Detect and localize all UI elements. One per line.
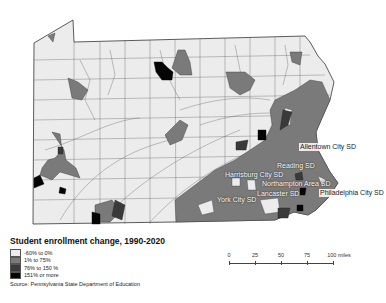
map-label-harrisburg: Harrisburg City SD xyxy=(224,171,284,179)
scale-tick xyxy=(281,261,282,265)
scale-tick-label: 0 xyxy=(227,252,230,258)
map-label-reading: Reading SD xyxy=(276,162,316,170)
legend-item: 151% or more xyxy=(10,272,165,280)
scale-bar: 0 25 50 75 100 miles xyxy=(229,252,324,272)
scale-tick xyxy=(255,261,256,265)
map-label-northampton: Northampton Area SD xyxy=(261,180,331,188)
map-label-philadelphia: Philadelphia City SD xyxy=(319,189,385,197)
pennsylvania-school-district-map: Allentown City SD Reading SD Harrisburg … xyxy=(0,0,386,240)
legend-label: 76% to 150 % xyxy=(24,265,58,271)
scale-tick-label: 25 xyxy=(252,252,258,258)
source-note: Source: Pennsylvania State Department of… xyxy=(10,281,165,287)
legend-swatch xyxy=(10,249,21,257)
scale-tick xyxy=(229,261,230,265)
map-legend: Student enrollment change, 1990-2020 -60… xyxy=(10,236,165,287)
legend-label: -60% to 0% xyxy=(24,250,52,256)
legend-label: 151% or more xyxy=(24,272,59,278)
legend-swatch xyxy=(10,272,21,280)
scale-tick xyxy=(333,261,334,265)
legend-title: Student enrollment change, 1990-2020 xyxy=(10,236,165,246)
map-svg xyxy=(0,0,386,240)
map-label-allentown: Allentown City SD xyxy=(299,143,357,151)
legend-swatch xyxy=(10,257,21,265)
map-label-york: York City SD xyxy=(216,196,257,204)
scale-tick-label: 100 miles xyxy=(327,252,351,258)
legend-item: 76% to 150 % xyxy=(10,264,165,272)
legend-swatch xyxy=(10,264,21,272)
legend-label: 1% to 75% xyxy=(24,257,51,263)
scale-tick-label: 75 xyxy=(304,252,310,258)
scale-tick-label: 50 xyxy=(278,252,284,258)
legend-item: -60% to 0% xyxy=(10,249,165,257)
scale-tick xyxy=(307,261,308,265)
map-label-lancaster: Lancaster SD xyxy=(256,190,300,198)
legend-item: 1% to 75% xyxy=(10,257,165,265)
